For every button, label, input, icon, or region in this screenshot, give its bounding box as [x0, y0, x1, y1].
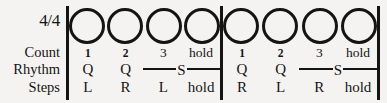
steps-row: L R L hold: [69, 79, 220, 97]
beat-circle-row: [69, 7, 220, 45]
count-cell: 3: [300, 45, 338, 61]
step-cell: R: [107, 79, 145, 96]
count-cell: 1: [223, 47, 261, 59]
step-cell: hold: [182, 79, 220, 96]
open-circle: [262, 8, 298, 44]
count-cell: hold: [339, 45, 377, 61]
steps-row: R L R hold: [223, 79, 377, 97]
time-signature: 4/4: [39, 11, 60, 31]
slow-letter: S: [176, 63, 186, 78]
slow-letter: S: [333, 63, 343, 78]
slow-dash-left: [143, 68, 176, 70]
count-cell: 3: [145, 45, 183, 61]
beat-circle-row: [223, 7, 377, 45]
open-circle: [107, 8, 143, 44]
row-label-count: Count: [25, 44, 60, 61]
measure-2: 1 2 3 hold Q Q S R L R hold: [223, 0, 377, 103]
slow-dash-right: [187, 68, 220, 70]
open-circle: [184, 8, 220, 44]
step-cell: R: [223, 79, 261, 96]
count-cell: hold: [182, 45, 220, 61]
step-cell: L: [145, 79, 183, 96]
barline-right: [377, 6, 380, 100]
open-circle: [69, 8, 105, 44]
rhythm-notation-chart: 4/4 Count Rhythm Steps 1 2 3 hold Q Q: [0, 0, 387, 103]
slow-dash-left: [299, 68, 333, 70]
count-cell: 2: [262, 47, 300, 59]
open-circle: [341, 8, 377, 44]
row-label-rhythm: Rhythm: [13, 61, 60, 78]
open-circle: [302, 8, 338, 44]
step-cell: R: [300, 79, 338, 96]
count-cell: 1: [69, 47, 107, 59]
slow-dash-right: [343, 68, 377, 70]
count-row: 1 2 3 hold: [69, 45, 220, 60]
step-cell: hold: [339, 79, 377, 96]
count-cell: 2: [107, 47, 145, 59]
step-cell: L: [262, 79, 300, 96]
open-circle: [146, 8, 182, 44]
rhythm-cell: Q: [262, 61, 300, 78]
slow-beat-span: S: [299, 61, 377, 79]
row-label-steps: Steps: [29, 79, 60, 96]
row-label-column: 4/4 Count Rhythm Steps: [0, 0, 64, 103]
count-row: 1 2 3 hold: [223, 45, 377, 60]
rhythm-cell: Q: [69, 61, 107, 78]
slow-beat-span: S: [143, 61, 220, 79]
measure-1: 1 2 3 hold Q Q S L R L hold: [69, 0, 220, 103]
rhythm-cell: Q: [223, 61, 261, 78]
open-circle: [223, 8, 259, 44]
rhythm-cell: Q: [107, 61, 145, 78]
step-cell: L: [69, 79, 107, 96]
